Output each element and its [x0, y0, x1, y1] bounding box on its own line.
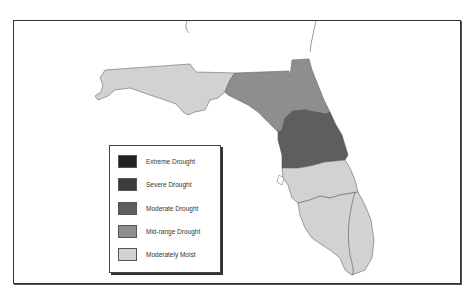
legend-swatch — [118, 248, 137, 261]
state-border-line — [186, 21, 189, 33]
legend-item-severe-drought: Severe Drought — [118, 177, 192, 191]
region-central-florida[interactable] — [278, 110, 348, 168]
legend-label: Mid-range Drought — [146, 228, 200, 235]
legend-item-moderate-drought: Moderate Drought — [118, 201, 198, 215]
legend-label: Severe Drought — [146, 181, 192, 188]
legend-item-moderately-moist: Moderately Moist — [118, 247, 196, 261]
legend-swatch — [118, 225, 137, 238]
legend-swatch — [118, 155, 137, 168]
legend-item-extreme-drought: Extreme Drought — [118, 154, 195, 168]
florida-map — [0, 0, 475, 296]
legend-item-mid-range-drought: Mid-range Drought — [118, 224, 200, 238]
legend-swatch — [118, 178, 137, 191]
legend-swatch — [118, 202, 137, 215]
coastline-north — [310, 21, 316, 52]
map-legend: Extreme Drought Severe Drought Moderate … — [109, 145, 221, 273]
region-panhandle[interactable] — [95, 64, 235, 115]
region-south-florida[interactable] — [298, 192, 374, 275]
legend-label: Extreme Drought — [146, 158, 195, 165]
legend-label: Moderate Drought — [146, 205, 198, 212]
legend-label: Moderately Moist — [146, 251, 196, 258]
